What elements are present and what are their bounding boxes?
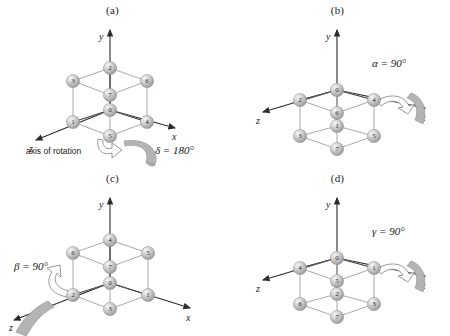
- panel-c: (c) y x z 4: [0, 168, 225, 336]
- panel-a-nodes: 2 3 6 7 0 1 4 5: [0, 0, 225, 168]
- node-sphere[interactable]: 4: [293, 261, 306, 274]
- node-label: 3: [372, 300, 376, 308]
- node-label: 1: [146, 291, 150, 299]
- node-sphere[interactable]: 1: [330, 119, 343, 132]
- node-sphere[interactable]: 6: [330, 106, 343, 119]
- node-label: 1: [335, 122, 339, 130]
- node-sphere[interactable]: 4: [367, 93, 380, 106]
- node-sphere[interactable]: 2: [330, 287, 343, 300]
- node-label: 3: [298, 132, 302, 140]
- node-label: 6: [71, 249, 75, 257]
- node-label: 6: [335, 109, 339, 117]
- node-sphere[interactable]: 5: [103, 129, 116, 142]
- node-label: 0: [335, 254, 339, 262]
- node-sphere[interactable]: 2: [103, 61, 116, 74]
- node-sphere[interactable]: 1: [66, 115, 79, 128]
- node-sphere[interactable]: 4: [140, 115, 153, 128]
- angle-label-a: δ = 180°: [155, 144, 194, 156]
- axis-of-rotation-label-a: axis of rotation: [26, 146, 81, 156]
- node-label: 1: [372, 264, 376, 272]
- node-label: 5: [335, 277, 339, 285]
- node-label: 0: [108, 106, 112, 114]
- panel-d: (d) y x z 0: [225, 168, 450, 336]
- node-label: 2: [298, 96, 302, 104]
- node-label: 7: [108, 263, 112, 271]
- node-label: 5: [146, 249, 150, 257]
- node-sphere[interactable]: 5: [367, 129, 380, 142]
- node-label: 7: [335, 313, 339, 321]
- node-sphere[interactable]: 6: [66, 246, 79, 259]
- node-label: 4: [298, 264, 302, 272]
- node-sphere[interactable]: 5: [330, 274, 343, 287]
- node-sphere[interactable]: 3: [293, 129, 306, 142]
- node-label: 2: [335, 290, 339, 298]
- node-sphere[interactable]: 2: [66, 288, 79, 301]
- node-label: 4: [372, 96, 376, 104]
- node-label: 5: [108, 132, 112, 140]
- panel-d-nodes: 0 4 1 5 2 6 3 7: [225, 168, 450, 336]
- node-sphere[interactable]: 6: [293, 297, 306, 310]
- panel-b: (b) y x z 0: [225, 0, 450, 168]
- node-sphere[interactable]: 7: [103, 260, 116, 273]
- panel-a: (a) y x z: [0, 0, 225, 168]
- node-sphere[interactable]: 0: [330, 251, 343, 264]
- node-sphere[interactable]: 7: [330, 310, 343, 323]
- node-sphere[interactable]: 1: [367, 261, 380, 274]
- node-label: 5: [372, 132, 376, 140]
- node-label: 2: [71, 291, 75, 299]
- node-sphere[interactable]: 7: [103, 88, 116, 101]
- node-label: 6: [145, 77, 149, 85]
- node-sphere[interactable]: 2: [293, 93, 306, 106]
- node-label: 3: [71, 77, 75, 85]
- node-label: 4: [108, 236, 112, 244]
- node-label: 0: [108, 279, 112, 287]
- node-sphere[interactable]: 0: [103, 276, 116, 289]
- node-label: 7: [108, 91, 112, 99]
- node-sphere[interactable]: 5: [141, 246, 154, 259]
- node-label: 6: [298, 300, 302, 308]
- angle-label-c: β = 90°: [14, 260, 48, 272]
- node-sphere[interactable]: 3: [103, 302, 116, 315]
- angle-label-b: α = 90°: [372, 57, 406, 69]
- panel-c-nodes: 4 6 5 7 0 2 1 3: [0, 168, 225, 336]
- node-sphere[interactable]: 1: [141, 288, 154, 301]
- node-label: 2: [108, 64, 112, 72]
- angle-label-d: γ = 90°: [372, 225, 405, 237]
- node-label: 0: [335, 86, 339, 94]
- node-sphere[interactable]: 0: [103, 103, 116, 116]
- panel-b-nodes: 0 2 4 6 1 3 5 7: [225, 0, 450, 168]
- node-sphere[interactable]: 0: [330, 83, 343, 96]
- node-label: 3: [108, 305, 112, 313]
- node-label: 7: [335, 145, 339, 153]
- node-sphere[interactable]: 7: [330, 142, 343, 155]
- node-sphere[interactable]: 3: [66, 74, 79, 87]
- node-sphere[interactable]: 3: [367, 297, 380, 310]
- node-label: 4: [145, 118, 149, 126]
- node-sphere[interactable]: 4: [103, 233, 116, 246]
- node-sphere[interactable]: 6: [140, 74, 153, 87]
- node-label: 1: [71, 118, 75, 126]
